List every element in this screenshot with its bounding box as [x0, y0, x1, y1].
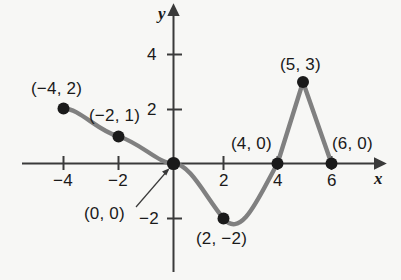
data-point--4-2	[58, 103, 70, 115]
x-tick-label--2: −2	[108, 172, 128, 189]
x-tick-label-4: 4	[273, 172, 283, 189]
point-label-0-0: (0, 0)	[84, 205, 125, 222]
data-point-0-0	[167, 157, 180, 170]
x-tick-label-2: 2	[219, 172, 229, 189]
point-label-6-0: (6, 0)	[332, 135, 373, 152]
y-tick-label-2: 2	[147, 101, 157, 118]
x-tick-label--4: −4	[53, 172, 73, 189]
origin-annotation-arrowhead	[162, 168, 170, 175]
graph-figure: y x −4 −2 2 4 6 4 2 −2 (−4, 2) (−2, 1) (…	[0, 0, 401, 280]
data-point-2--2	[218, 213, 230, 225]
x-axis-label: x	[374, 170, 383, 187]
data-point-6-0	[326, 158, 338, 170]
x-tick-label-6: 6	[327, 172, 337, 189]
data-point-4-0	[272, 158, 284, 170]
y-tick-label--2: −2	[139, 210, 159, 227]
y-axis-label: y	[158, 5, 166, 22]
point-label--2-1: (−2, 1)	[89, 107, 140, 124]
data-point-5-3	[297, 76, 309, 88]
point-label-5-3: (5, 3)	[280, 56, 321, 73]
origin-annotation-arrow	[136, 170, 168, 207]
point-label-4-0: (4, 0)	[231, 135, 272, 152]
function-curve	[64, 82, 332, 224]
data-point--2-1	[113, 131, 125, 143]
point-label-2--2: (2, −2)	[196, 230, 247, 247]
point-label--4-2: (−4, 2)	[31, 80, 82, 97]
y-tick-label-4: 4	[147, 46, 157, 63]
